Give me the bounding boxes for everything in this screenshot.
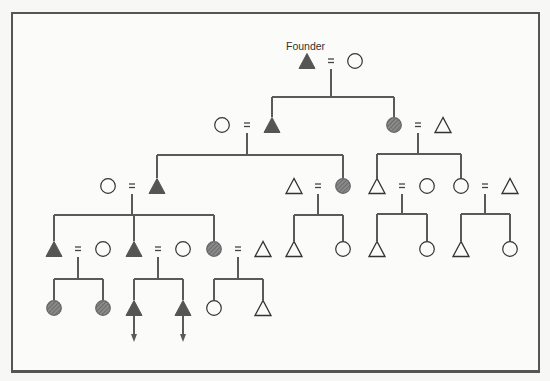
arrow-down-icon [131,334,137,342]
female-circle-icon [96,242,111,257]
male-lineage-triangle-icon [264,118,280,133]
male-triangle-icon [369,179,385,194]
male-triangle-icon [369,242,385,257]
female-lineage-circle-icon [47,301,62,316]
male-triangle-icon [453,242,469,257]
founder-label: Founder [286,40,325,52]
female-circle-icon [101,179,116,194]
male-triangle-icon [502,179,518,194]
male-lineage-triangle-icon [299,54,315,69]
female-lineage-circle-icon [207,242,222,257]
female-circle-icon [454,179,469,194]
kinship-diagram [0,0,550,381]
female-lineage-circle-icon [387,118,402,133]
female-circle-icon [503,242,518,257]
male-lineage-triangle-icon [126,301,142,316]
kin-nodes [46,54,518,316]
male-triangle-icon [286,179,302,194]
female-circle-icon [420,242,435,257]
male-lineage-triangle-icon [149,179,165,194]
male-lineage-triangle-icon [175,301,191,316]
female-circle-icon [176,242,191,257]
female-circle-icon [336,242,351,257]
arrow-down-icon [180,334,186,342]
male-triangle-icon [435,118,451,133]
male-lineage-triangle-icon [126,242,142,257]
descent-lines [54,69,510,342]
female-lineage-circle-icon [336,179,351,194]
female-circle-icon [215,118,230,133]
male-triangle-icon [255,242,271,257]
female-lineage-circle-icon [96,301,111,316]
male-lineage-triangle-icon [46,242,62,257]
male-triangle-icon [255,301,271,316]
male-triangle-icon [286,242,302,257]
female-circle-icon [207,301,222,316]
female-circle-icon [420,179,435,194]
female-circle-icon [348,54,363,69]
